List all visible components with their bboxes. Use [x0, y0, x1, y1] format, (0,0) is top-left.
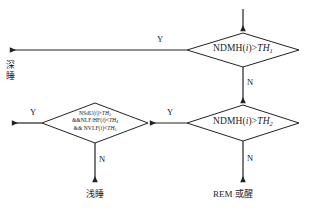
branch-label-d1-no: N [247, 77, 253, 87]
flowchart-graphics [0, 0, 309, 214]
branch-label-d2-no: N [247, 153, 253, 163]
decision-node-3-shape [42, 103, 148, 143]
branch-label-d3-no: N [99, 154, 105, 164]
decision-node-2-shape [187, 105, 299, 141]
branch-label-d3-yes: Y [30, 107, 36, 117]
branch-label-d1-yes: Y [157, 34, 163, 44]
terminal-light-sleep: 浅睡 [86, 187, 104, 200]
flowchart-canvas: NDMH(i)>TH1 NDMH(i)>TH2 NSdU(i)>TH3 &&NL… [0, 0, 309, 214]
terminal-deep-sleep: 深睡 [3, 60, 17, 83]
terminal-rem-or-awake: REM 或醒 [213, 187, 253, 200]
decision-node-1-shape [187, 33, 299, 67]
branch-label-d2-yes: Y [167, 107, 173, 117]
